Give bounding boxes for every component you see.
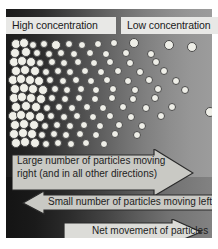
particle — [73, 112, 81, 120]
particle — [127, 113, 135, 121]
particle — [63, 86, 71, 94]
particle — [86, 49, 94, 57]
particle — [29, 41, 37, 49]
arrow-small-line-1: Small number of particles moving left — [48, 196, 212, 209]
particle — [172, 77, 180, 85]
particle — [151, 94, 159, 102]
particle — [122, 49, 130, 57]
particle — [70, 50, 78, 58]
arrow-small-number-left-text: Small number of particles moving left — [48, 196, 212, 209]
gradient-panel: Large number of particles moving right (… — [6, 9, 212, 238]
particle — [115, 121, 123, 129]
particle — [119, 103, 127, 111]
particle — [54, 67, 62, 75]
particle — [205, 107, 212, 117]
particle — [109, 85, 117, 93]
particle — [81, 67, 89, 75]
particle — [74, 58, 82, 66]
particle — [50, 130, 58, 138]
particle — [59, 77, 67, 85]
particle — [168, 103, 176, 111]
particle — [60, 59, 68, 67]
particle — [90, 59, 98, 67]
particle — [126, 59, 134, 67]
particle — [30, 138, 40, 148]
particle — [47, 112, 55, 120]
particle — [106, 112, 114, 120]
particle — [124, 77, 132, 85]
arrow-large-line-1: Large number of particles moving — [17, 155, 165, 168]
particle — [45, 50, 53, 58]
particle — [87, 77, 95, 85]
arrow-small-number-left: Small number of particles moving left — [22, 191, 212, 215]
particle — [103, 76, 111, 84]
label-low-concentration: Low concentration — [121, 17, 218, 34]
particle — [91, 95, 99, 103]
particle — [20, 137, 30, 147]
particle — [54, 139, 62, 147]
particle — [83, 103, 91, 111]
particle — [78, 41, 86, 49]
particle — [57, 49, 65, 57]
particle — [66, 122, 74, 130]
particle — [60, 113, 68, 121]
particle — [99, 104, 107, 112]
particle — [106, 58, 114, 66]
particle — [42, 68, 50, 76]
particle — [181, 86, 189, 94]
particle — [145, 76, 153, 84]
particle — [68, 104, 76, 112]
particle — [108, 94, 116, 102]
particle — [46, 76, 54, 84]
particle — [94, 40, 102, 48]
particle — [111, 130, 119, 138]
particle — [66, 68, 74, 76]
particle — [31, 102, 41, 112]
particle — [48, 58, 56, 66]
arrow-net-movement: Net movement of particles — [64, 219, 202, 238]
particle — [55, 103, 63, 111]
particle — [160, 67, 168, 75]
particle — [157, 112, 165, 120]
particle — [48, 94, 56, 102]
particle — [102, 50, 110, 58]
diffusion-figure: Large number of particles moving right (… — [0, 0, 218, 249]
particle — [41, 122, 49, 130]
particle — [80, 121, 88, 129]
particle — [33, 49, 41, 57]
particle — [138, 122, 146, 130]
particle — [187, 42, 197, 52]
particle — [110, 39, 118, 47]
particle — [129, 95, 137, 103]
particle — [96, 122, 104, 130]
particle — [72, 76, 80, 84]
particle — [114, 67, 122, 75]
particle — [92, 86, 100, 94]
particle — [61, 95, 69, 103]
particle — [154, 85, 162, 93]
particle — [100, 140, 108, 148]
particle — [129, 38, 139, 48]
particle — [92, 131, 100, 139]
particle — [62, 131, 70, 139]
particle — [142, 104, 150, 112]
particle — [147, 50, 155, 58]
particle — [42, 140, 50, 148]
arrow-large-number-right-text: Large number of particles moving right (… — [17, 155, 165, 180]
particle — [97, 68, 105, 76]
particle — [65, 40, 73, 48]
arrow-net-line-1: Net movement of particles — [92, 225, 208, 238]
particle — [136, 68, 144, 76]
particle — [152, 58, 160, 66]
arrow-large-number-right: Large number of particles moving right (… — [12, 149, 194, 197]
particle — [76, 130, 84, 138]
particle — [89, 113, 97, 121]
particle — [38, 131, 46, 139]
particle — [133, 131, 141, 139]
label-high-concentration: High concentration — [6, 17, 116, 34]
particle — [75, 94, 83, 102]
particle — [131, 86, 139, 94]
particle — [53, 121, 61, 129]
particle — [43, 104, 51, 112]
particle — [77, 85, 85, 93]
